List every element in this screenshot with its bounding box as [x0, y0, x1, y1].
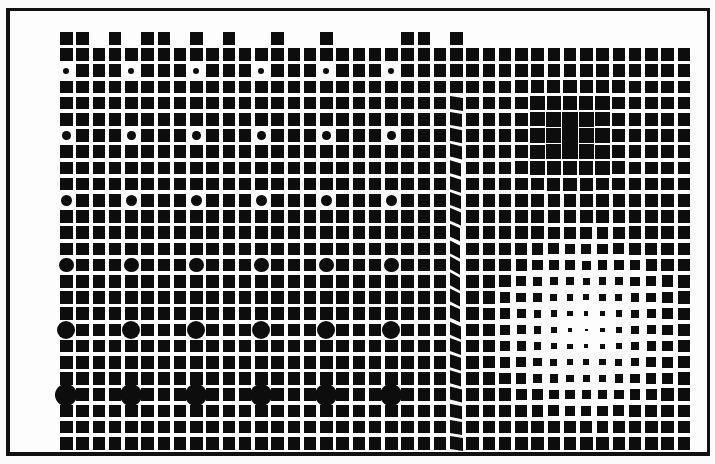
- grid-square: [141, 64, 154, 77]
- grid-square: [434, 194, 447, 207]
- grid-square: [401, 64, 414, 77]
- grid-square: [466, 129, 479, 142]
- grid-square: [534, 310, 542, 318]
- grid-square: [255, 81, 268, 94]
- grid-square: [223, 340, 236, 353]
- grid-square: [60, 356, 73, 369]
- grid-square: [584, 344, 588, 348]
- grid-square: [320, 81, 333, 94]
- grid-square: [109, 324, 122, 337]
- grid-square: [564, 210, 577, 223]
- grid-square: [125, 307, 138, 320]
- grid-square: [206, 145, 219, 158]
- grid-square: [645, 194, 658, 207]
- grid-square: [434, 48, 447, 61]
- grid-square: [206, 324, 219, 337]
- grid-square: [255, 437, 268, 450]
- grid-square: [109, 356, 122, 369]
- grid-square: [499, 145, 512, 158]
- grid-square: [174, 129, 187, 142]
- grid-square: [678, 178, 691, 191]
- grid-square: [158, 405, 171, 418]
- grid-square: [584, 311, 588, 315]
- grid-square: [661, 81, 674, 94]
- grid-square: [434, 129, 447, 142]
- grid-square: [239, 48, 252, 61]
- grid-square: [190, 356, 203, 369]
- grid-square: [662, 357, 673, 368]
- grid-square: [629, 48, 642, 61]
- grid-square: [353, 178, 366, 191]
- circle-dot: [57, 321, 75, 339]
- grid-square: [336, 259, 349, 272]
- grid-square: [616, 310, 622, 316]
- skewed-square: [450, 436, 463, 450]
- skewed-square: [450, 208, 461, 225]
- circle-dot: [386, 195, 397, 206]
- grid-square: [385, 291, 398, 304]
- grid-square: [662, 308, 673, 319]
- grid-square: [271, 307, 284, 320]
- grid-square: [401, 275, 414, 288]
- grid-square: [466, 162, 479, 175]
- grid-square: [190, 210, 203, 223]
- grid-square: [320, 340, 333, 353]
- grid-square: [93, 388, 106, 401]
- grid-square: [466, 356, 479, 369]
- grid-square: [434, 210, 447, 223]
- grid-square: [288, 356, 301, 369]
- grid-square: [645, 421, 658, 434]
- grid-square: [206, 259, 219, 272]
- grid-square: [93, 178, 106, 191]
- circle-dot: [126, 195, 137, 206]
- skewed-square: [450, 387, 462, 402]
- grid-square: [515, 48, 528, 61]
- grid-square: [125, 243, 138, 256]
- grid-square: [288, 259, 301, 272]
- grid-square: [548, 48, 561, 61]
- grid-square: [288, 210, 301, 223]
- grid-square: [434, 372, 447, 385]
- grid-square: [158, 372, 171, 385]
- grid-square: [678, 194, 691, 207]
- grid-square: [76, 340, 89, 353]
- grid-square: [517, 341, 526, 350]
- grid-square: [515, 243, 527, 255]
- grid-square: [206, 340, 219, 353]
- grid-square: [661, 145, 674, 158]
- grid-square: [190, 405, 203, 418]
- grid-square: [515, 80, 528, 93]
- grid-square: [418, 48, 431, 61]
- grid-square: [615, 277, 623, 285]
- grid-square: [567, 344, 572, 349]
- grid-square: [629, 178, 642, 191]
- grid-square: [76, 113, 89, 126]
- grid-square: [174, 145, 187, 158]
- grid-square: [483, 308, 495, 320]
- grid-square: [385, 437, 398, 450]
- grid-square: [239, 210, 252, 223]
- grid-square: [174, 307, 187, 320]
- grid-square: [515, 64, 528, 77]
- grid-square: [239, 340, 252, 353]
- grid-square: [678, 145, 691, 158]
- grid-square: [418, 145, 431, 158]
- circle-dot: [61, 195, 72, 206]
- grid-square: [288, 113, 301, 126]
- grid-square: [385, 356, 398, 369]
- grid-square: [483, 405, 496, 418]
- grid-square: [466, 437, 479, 450]
- grid-square: [141, 340, 154, 353]
- grid-square: [336, 405, 349, 418]
- grid-square: [158, 226, 171, 239]
- grid-square: [418, 243, 431, 256]
- grid-square: [500, 325, 510, 335]
- grid-square: [304, 81, 317, 94]
- grid-square: [580, 437, 593, 450]
- grid-square: [288, 421, 301, 434]
- grid-square: [125, 178, 138, 191]
- grid-square: [141, 81, 154, 94]
- grid-square: [206, 421, 219, 434]
- grid-square: [483, 81, 496, 94]
- grid-square: [320, 372, 333, 385]
